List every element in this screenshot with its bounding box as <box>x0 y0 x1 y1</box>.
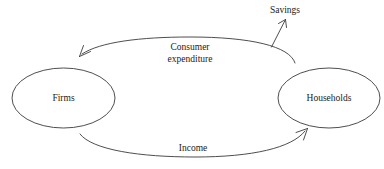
node-firms-label: Firms <box>52 93 74 103</box>
flow-consumer-expenditure-label-line1: Consumer <box>170 42 210 52</box>
flow-savings-label: Savings <box>270 5 300 15</box>
flow-savings-line[interactable] <box>272 21 286 48</box>
diagram-canvas: Firms Households Consumer expenditure In… <box>0 0 384 169</box>
circular-flow-diagram: Firms Households Consumer expenditure In… <box>0 0 384 169</box>
flow-income-label: Income <box>179 143 208 153</box>
flow-consumer-expenditure-label-line2: expenditure <box>168 54 213 64</box>
consumer-expenditure-arrowhead-icon <box>80 46 91 57</box>
node-households-label: Households <box>307 93 352 103</box>
